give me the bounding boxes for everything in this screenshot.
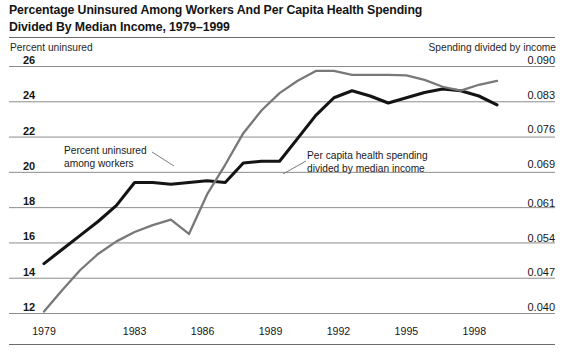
- gridlines: [9, 67, 555, 314]
- series-line-spending-income: [44, 71, 497, 312]
- x-axis-tick-label: 1979: [32, 325, 56, 337]
- left-axis-tick-label: 24: [23, 89, 35, 101]
- chart-figure: Percentage Uninsured Among Workers And P…: [0, 0, 565, 356]
- title-divider: [9, 37, 555, 38]
- annotation-percent-uninsured: Percent uninsured among workers: [64, 145, 147, 170]
- x-axis-tick-label: 1986: [191, 325, 215, 337]
- left-axis-tick-label: 20: [23, 160, 35, 172]
- right-axis-tick-label: 0.047: [527, 266, 555, 278]
- x-axis-tick-label: 1995: [395, 325, 419, 337]
- annotation-gray-line-2: divided by median income: [307, 163, 428, 176]
- right-axis-tick-label: 0.076: [527, 123, 555, 135]
- right-axis-caption: Spending divided by income: [429, 42, 556, 53]
- x-axis-tick-label: 1989: [259, 325, 283, 337]
- right-axis-tick-label: 0.083: [527, 89, 555, 101]
- right-axis-tick-label: 0.090: [527, 54, 555, 66]
- annotation-spending-income: Per capita health spending divided by me…: [307, 150, 428, 175]
- left-axis-tick-label: 14: [23, 266, 35, 278]
- leader-line-black: [152, 152, 174, 166]
- data-series-layer: [44, 71, 497, 312]
- left-axis-tick-label: 22: [23, 125, 35, 137]
- left-axis-tick-label: 26: [23, 54, 35, 66]
- right-axis-tick-label: 0.061: [527, 197, 555, 209]
- plot-area: [0, 56, 565, 318]
- annotation-gray-line-1: Per capita health spending: [307, 150, 428, 163]
- right-axis-tick-label: 0.040: [527, 301, 555, 313]
- x-axis-tick-label: 1983: [123, 325, 147, 337]
- chart-canvas: [0, 56, 565, 318]
- right-axis-tick-label: 0.069: [527, 158, 555, 170]
- annotation-black-line-2: among workers: [64, 158, 147, 171]
- title-line-1: Percentage Uninsured Among Workers And P…: [9, 2, 529, 19]
- left-axis-tick-label: 18: [23, 195, 35, 207]
- title-line-2: Divided By Median Income, 1979–1999: [9, 19, 529, 36]
- series-line-percent-uninsured: [44, 89, 497, 264]
- page-title: Percentage Uninsured Among Workers And P…: [9, 2, 529, 35]
- left-axis-tick-label: 12: [23, 301, 35, 313]
- annotation-black-line-1: Percent uninsured: [64, 145, 147, 158]
- x-axis-tick-label: 1992: [327, 325, 351, 337]
- left-axis-tick-label: 16: [23, 230, 35, 242]
- left-axis-caption: Percent uninsured: [10, 42, 93, 53]
- x-axis-tick-label: 1998: [463, 325, 487, 337]
- bottom-divider: [9, 344, 555, 345]
- right-axis-tick-label: 0.054: [527, 232, 555, 244]
